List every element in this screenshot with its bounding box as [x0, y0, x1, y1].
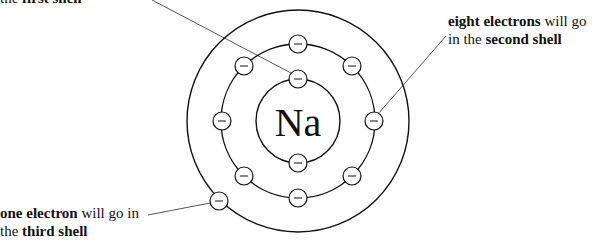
- electron-icon: [343, 57, 361, 75]
- text-segment: the: [0, 223, 22, 239]
- text-segment: will go: [541, 13, 587, 29]
- text-segment-bold: first shell: [22, 0, 82, 6]
- electron-icon: [235, 57, 253, 75]
- electron-icon: [213, 112, 231, 130]
- text-segment-bold: one electron: [0, 205, 78, 221]
- text-segment-bold: second shell: [486, 31, 562, 47]
- annotation-third-line1: one electron will go in: [0, 205, 139, 221]
- electron-icon: [289, 189, 307, 207]
- text-segment-bold: third shell: [22, 223, 87, 239]
- annotation-second-shell: eight electrons will go in the second sh…: [448, 13, 586, 47]
- electron-icon: [289, 154, 307, 172]
- nucleus-symbol: Na: [275, 100, 322, 145]
- electron-icon: [289, 35, 307, 53]
- text-segment: the: [0, 0, 22, 6]
- text-segment: in the: [448, 31, 486, 47]
- annotation-third-line2: the third shell: [0, 223, 88, 239]
- pointer-line-third-shell: [148, 203, 210, 215]
- electron-icon: [210, 192, 228, 210]
- annotation-first-shell: the first shell: [0, 0, 82, 6]
- sodium-atom-diagram: Na the first shell eight electrons will …: [0, 0, 594, 241]
- electron-icon: [235, 167, 253, 185]
- annotation-second-line1: eight electrons will go: [448, 13, 586, 29]
- electron-icon: [365, 112, 383, 130]
- text-segment: will go in: [78, 205, 140, 221]
- pointer-line-first-shell: [152, 0, 291, 73]
- annotation-first-line1: the first shell: [0, 0, 82, 6]
- text-segment-bold: eight electrons: [448, 13, 541, 29]
- annotation-second-line2: in the second shell: [448, 31, 562, 47]
- annotation-third-shell: one electron will go in the third shell: [0, 205, 139, 239]
- pointer-line-second-shell: [378, 36, 446, 114]
- electron-icon: [343, 167, 361, 185]
- electron-icon: [289, 70, 307, 88]
